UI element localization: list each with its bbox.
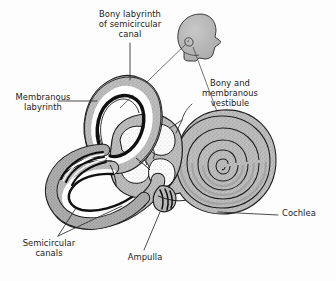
cochlea [167,110,276,214]
label-ampulla: Ampulla [108,252,182,262]
label-semicircular-canals: Semicircular canals [6,238,92,258]
label-bony-and-membranous-vestibule: Bony and membranous vestibule [186,78,274,109]
label-membranous-labyrinth: Membranous labyrinth [4,92,82,112]
head-profile-icon [178,14,221,61]
label-bony-labyrinth-of-semicircular-canal: Bony labyrinth of semicircular canal [78,9,182,40]
leader-ampulla [144,212,160,250]
label-cochlea: Cochlea [282,208,336,218]
figure-canvas: Bony labyrinth of semicircular canal Bon… [0,0,336,281]
